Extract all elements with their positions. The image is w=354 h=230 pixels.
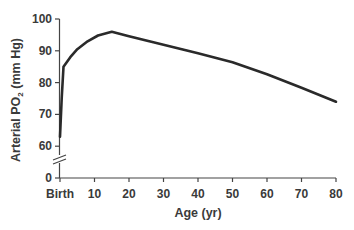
y-tick-label: 100 xyxy=(32,12,52,26)
x-axis: Birth 10 20 30 40 50 60 70 80 xyxy=(46,178,343,201)
x-tick-label: 20 xyxy=(122,187,136,201)
y-tick-label: 80 xyxy=(39,76,53,90)
x-tick-label: 50 xyxy=(226,187,240,201)
x-tick-label: 80 xyxy=(329,187,343,201)
y-tick-label: 0 xyxy=(45,171,52,185)
chart: 100 90 80 70 60 0 Arterial PO2 (mm Hg) B… xyxy=(0,0,354,230)
y-tick-label: 70 xyxy=(39,107,53,121)
x-tick-label: 10 xyxy=(88,187,102,201)
x-tick-label: 30 xyxy=(157,187,171,201)
y-axis-title: Arterial PO2 (mm Hg) xyxy=(9,38,25,162)
po2-line xyxy=(60,32,336,137)
x-tick-label: Birth xyxy=(46,187,74,201)
x-tick-label: 40 xyxy=(191,187,205,201)
x-tick-label: 70 xyxy=(295,187,309,201)
x-tick-label: 60 xyxy=(260,187,274,201)
y-tick-label: 90 xyxy=(39,44,53,58)
x-axis-title: Age (yr) xyxy=(174,206,221,220)
y-tick-label: 60 xyxy=(39,139,53,153)
